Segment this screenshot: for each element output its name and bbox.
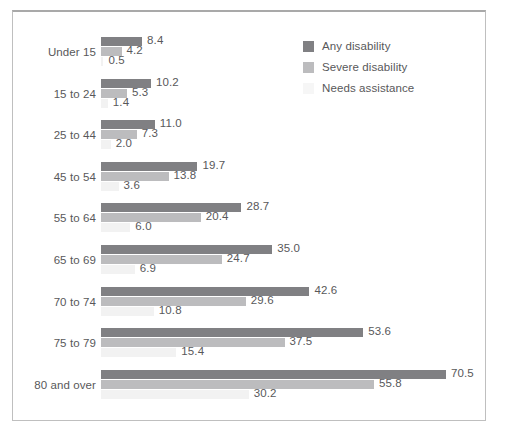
bar-row: 19.7 — [101, 162, 487, 171]
bar-group: 65 to 6935.024.76.9 — [13, 243, 487, 277]
bar-value-label: 1.4 — [113, 96, 129, 108]
bar-value-label: 35.0 — [277, 242, 300, 254]
category-label: 70 to 74 — [13, 285, 96, 319]
bars-stack: 42.629.610.8 — [101, 285, 487, 319]
bar-row: 70.5 — [101, 370, 487, 379]
bar-row: 1.4 — [101, 99, 487, 108]
bar-row: 30.2 — [101, 390, 487, 399]
bar-value-label: 28.7 — [246, 200, 269, 212]
category-label: 45 to 54 — [13, 160, 96, 194]
bar-value-label: 3.6 — [124, 179, 140, 191]
legend-label: Severe disability — [322, 61, 407, 73]
legend-swatch-icon — [303, 83, 314, 94]
bar-value-label: 10.8 — [159, 304, 182, 316]
bar — [101, 390, 249, 399]
category-label: 15 to 24 — [13, 77, 96, 111]
bar-value-label: 0.5 — [108, 54, 124, 66]
category-label: 65 to 69 — [13, 243, 96, 277]
bar-row: 42.6 — [101, 287, 487, 296]
bar-row: 24.7 — [101, 255, 487, 264]
legend-item: Needs assistance — [303, 78, 478, 98]
bar-group: 70 to 7442.629.610.8 — [13, 285, 487, 319]
bars-stack: 35.024.76.9 — [101, 243, 487, 277]
bar-group: 80 and over70.555.830.2 — [13, 368, 487, 402]
category-label: 75 to 79 — [13, 326, 96, 360]
legend-label: Needs assistance — [322, 82, 414, 94]
bar — [101, 307, 154, 316]
bar-group: 45 to 5419.713.83.6 — [13, 160, 487, 194]
bar-value-label: 11.0 — [160, 117, 182, 129]
bar-row: 15.4 — [101, 348, 487, 357]
bars-stack: 28.720.46.0 — [101, 201, 487, 235]
bar-value-label: 13.8 — [174, 169, 197, 181]
bar — [101, 287, 309, 296]
bar-value-label: 8.4 — [147, 34, 163, 46]
category-label: 80 and over — [13, 368, 96, 402]
legend-label: Any disability — [322, 40, 391, 52]
bar-value-label: 5.3 — [132, 86, 148, 98]
chart-legend: Any disabilitySevere disabilityNeeds ass… — [303, 36, 478, 99]
bar-value-label: 37.5 — [290, 335, 313, 347]
bar-row: 3.6 — [101, 182, 487, 191]
bar — [101, 348, 176, 357]
bar-value-label: 20.4 — [206, 210, 229, 222]
chart-figure: Under 158.44.20.515 to 2410.25.31.425 to… — [0, 0, 507, 436]
bar — [101, 99, 108, 108]
bar-value-label: 6.0 — [135, 220, 151, 232]
bar-value-label: 2.0 — [116, 137, 132, 149]
bar-row: 6.9 — [101, 265, 487, 274]
bar-row: 2.0 — [101, 140, 487, 149]
bar-group: 75 to 7953.637.515.4 — [13, 326, 487, 360]
bar-value-label: 15.4 — [181, 345, 204, 357]
bar — [101, 255, 222, 264]
bar-value-label: 4.2 — [127, 44, 143, 56]
bar — [101, 57, 103, 66]
bar-value-label: 6.9 — [140, 262, 156, 274]
bar-row: 13.8 — [101, 172, 487, 181]
bar-value-label: 42.6 — [314, 284, 337, 296]
bar-value-label: 24.7 — [227, 252, 250, 264]
bar-value-label: 70.5 — [451, 367, 474, 379]
bars-stack: 11.07.32.0 — [101, 118, 487, 152]
legend-swatch-icon — [303, 41, 314, 52]
bar-value-label: 53.6 — [368, 325, 391, 337]
bar-row: 7.3 — [101, 130, 487, 139]
bar-row: 28.7 — [101, 203, 487, 212]
bar — [101, 328, 363, 337]
bar-value-label: 55.8 — [379, 377, 402, 389]
category-label: Under 15 — [13, 35, 96, 69]
bar-row: 20.4 — [101, 213, 487, 222]
bar-group: 55 to 6428.720.46.0 — [13, 201, 487, 235]
bar — [101, 380, 374, 389]
bar-value-label: 30.2 — [254, 387, 277, 399]
bar-group: 25 to 4411.07.32.0 — [13, 118, 487, 152]
bar-row: 10.8 — [101, 307, 487, 316]
legend-item: Any disability — [303, 36, 478, 56]
bars-stack: 53.637.515.4 — [101, 326, 487, 360]
bar-value-label: 10.2 — [156, 76, 179, 88]
bar-value-label: 29.6 — [251, 294, 274, 306]
bar — [101, 182, 119, 191]
bars-stack: 70.555.830.2 — [101, 368, 487, 402]
category-label: 25 to 44 — [13, 118, 96, 152]
bar-row: 11.0 — [101, 120, 487, 129]
bar-value-label: 19.7 — [202, 159, 225, 171]
legend-item: Severe disability — [303, 57, 478, 77]
bars-stack: 19.713.83.6 — [101, 160, 487, 194]
chart-frame: Under 158.44.20.515 to 2410.25.31.425 to… — [12, 10, 486, 421]
bar-value-label: 7.3 — [142, 127, 158, 139]
bar — [101, 265, 135, 274]
bar-row: 55.8 — [101, 380, 487, 389]
bar-row: 35.0 — [101, 245, 487, 254]
bar-row: 37.5 — [101, 338, 487, 347]
bar — [101, 223, 130, 232]
legend-swatch-icon — [303, 62, 314, 73]
bar — [101, 140, 111, 149]
category-label: 55 to 64 — [13, 201, 96, 235]
bar-row: 6.0 — [101, 223, 487, 232]
